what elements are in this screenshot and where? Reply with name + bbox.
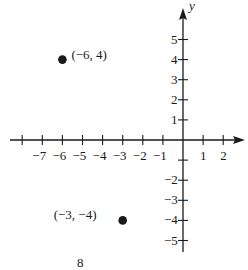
x-tick-label: −3 [113, 149, 127, 162]
y-tick-label: −5 [164, 234, 178, 247]
coordinate-plane: −7−6−5−4−3−2−11254321−2−3−4−5y(−6, 4)(−3… [0, 0, 248, 270]
page-number: 8 [77, 256, 84, 269]
x-tick-label: −7 [32, 149, 46, 162]
x-tick-label: −5 [73, 149, 87, 162]
y-tick-label: −4 [164, 213, 178, 226]
axes-svg [0, 0, 248, 270]
y-tick-label: 4 [171, 53, 178, 66]
x-tick-label: −1 [153, 149, 167, 162]
data-point [58, 55, 67, 64]
y-tick-label: 3 [171, 73, 178, 86]
data-point [118, 216, 127, 225]
point-label: (−6, 4) [71, 48, 107, 61]
y-tick-label: −3 [164, 193, 178, 206]
x-tick-label: −4 [93, 149, 107, 162]
x-tick-label: 1 [200, 149, 207, 162]
y-axis-label: y [189, 0, 195, 12]
point-label: (−3, −4) [54, 208, 97, 221]
y-tick-label: −2 [164, 173, 178, 186]
x-tick-label: −2 [133, 149, 147, 162]
y-tick-label: 5 [171, 33, 178, 46]
y-tick-label: 2 [171, 93, 178, 106]
y-tick-label: 1 [171, 113, 178, 126]
x-tick-label: 2 [220, 149, 227, 162]
x-tick-label: −6 [52, 149, 66, 162]
